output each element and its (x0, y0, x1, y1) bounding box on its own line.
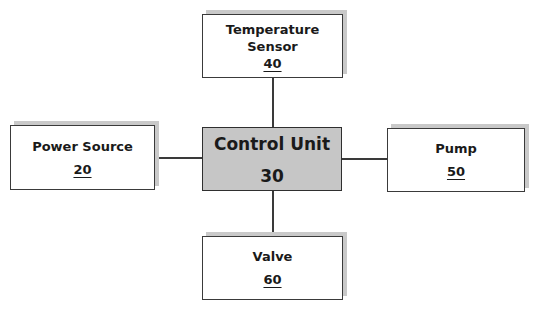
valve-block: Valve 60 (202, 236, 343, 300)
power-source-label: Power Source (32, 138, 133, 155)
valve-ref: 60 (263, 271, 281, 288)
temperature-sensor-block: Temperature Sensor 40 (202, 14, 343, 78)
pump-block: Pump 50 (387, 128, 525, 192)
control-unit-label: Control Unit (214, 134, 330, 154)
connector-sensor-to-control (272, 78, 274, 127)
pump-label: Pump (435, 140, 477, 157)
connector-power-to-control (155, 157, 202, 159)
power-source-block: Power Source 20 (10, 125, 155, 190)
control-unit-block: Control Unit 30 (202, 127, 342, 191)
connector-control-to-valve (272, 191, 274, 236)
power-source-ref: 20 (73, 161, 91, 178)
temperature-sensor-label-line2: Sensor (247, 38, 298, 55)
temperature-sensor-label-line1: Temperature (226, 21, 320, 38)
valve-label: Valve (253, 248, 293, 265)
temperature-sensor-ref: 40 (263, 55, 281, 72)
control-unit-ref: 30 (260, 168, 284, 185)
connector-control-to-pump (342, 158, 387, 160)
pump-ref: 50 (447, 163, 465, 180)
